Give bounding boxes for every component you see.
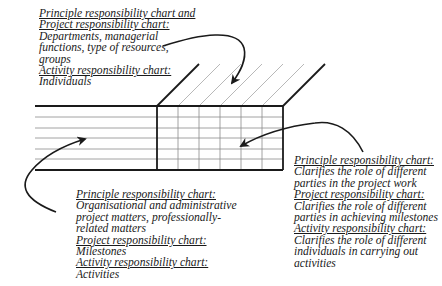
annotation-text: Individuals [39,76,195,87]
annotation-text: activities [294,258,438,269]
bottom-right-arrow [241,122,363,152]
annotation-text: functions, type of resources, [39,42,195,53]
bottom-left-annotation: Principle responsibility chart: Organisa… [76,189,237,280]
top-annotation: Principle responsibility chart and Proje… [39,8,195,88]
annotation-text: Activities [76,269,237,280]
annotation-heading: Project responsibility chart: [294,189,438,200]
row-lines [35,117,283,159]
top-face-hatch [178,64,304,106]
annotation-text: related matters [76,223,237,234]
bottom-right-annotation: Principle responsibility chart: Clarifie… [294,155,438,269]
annotation-text: individuals in carrying out [294,246,438,257]
